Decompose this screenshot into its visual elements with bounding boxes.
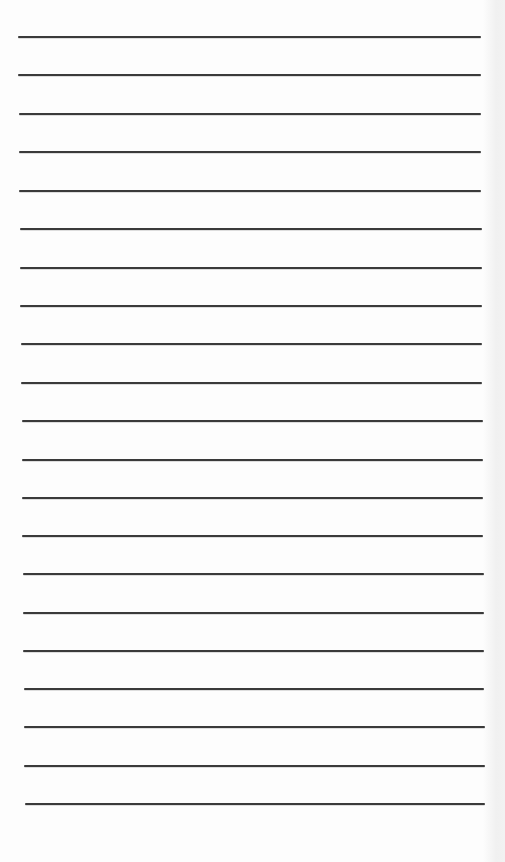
ruled-line [19, 113, 481, 115]
ruled-line [23, 650, 484, 652]
page-edge-shadow [483, 0, 505, 862]
ruled-line [22, 535, 483, 537]
ruled-line [21, 343, 482, 345]
ruled-line [25, 803, 485, 805]
ruled-line [22, 420, 483, 422]
ruled-line [20, 267, 482, 269]
ruled-line [24, 726, 485, 728]
ruled-line [20, 228, 482, 230]
lined-paper-page [0, 0, 505, 862]
ruled-line [21, 382, 482, 384]
ruled-line [23, 612, 484, 614]
ruled-line [24, 688, 484, 690]
ruled-line [20, 305, 482, 307]
ruled-line [22, 497, 483, 499]
ruled-line [19, 190, 481, 192]
ruled-line [18, 36, 481, 38]
ruled-line [23, 573, 484, 575]
ruled-line [18, 74, 481, 76]
ruled-line [24, 765, 485, 767]
ruled-line [22, 459, 483, 461]
ruled-line [19, 151, 481, 153]
